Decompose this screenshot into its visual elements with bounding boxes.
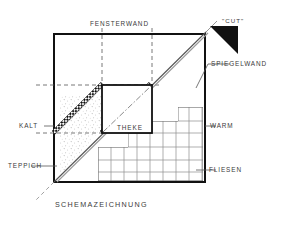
label-teppich: TEPPICH: [8, 162, 42, 169]
cut-triangle-icon: [210, 26, 238, 54]
label-fensterwand: FENSTERWAND: [90, 20, 149, 27]
label-spiegelwand: SPIEGELWAND: [211, 60, 267, 67]
schematic-drawing-canvas: FENSTERWAND SPIEGELWAND KALT WARM TEPPIC…: [0, 0, 282, 228]
label-warm: WARM: [210, 122, 234, 129]
leader-spiegelwand-diag: [196, 64, 208, 88]
label-kalt: KALT: [19, 122, 38, 129]
label-theke: THEKE: [117, 124, 143, 131]
label-fliesen: FLIESEN: [209, 166, 242, 173]
label-cut: "CUT": [222, 17, 244, 24]
cut-arrow-marker: [210, 26, 238, 54]
schematic-svg: FENSTERWAND SPIEGELWAND KALT WARM TEPPIC…: [0, 0, 282, 228]
label-caption-schemazeichnung: SCHEMAZEICHNUNG: [55, 200, 148, 209]
